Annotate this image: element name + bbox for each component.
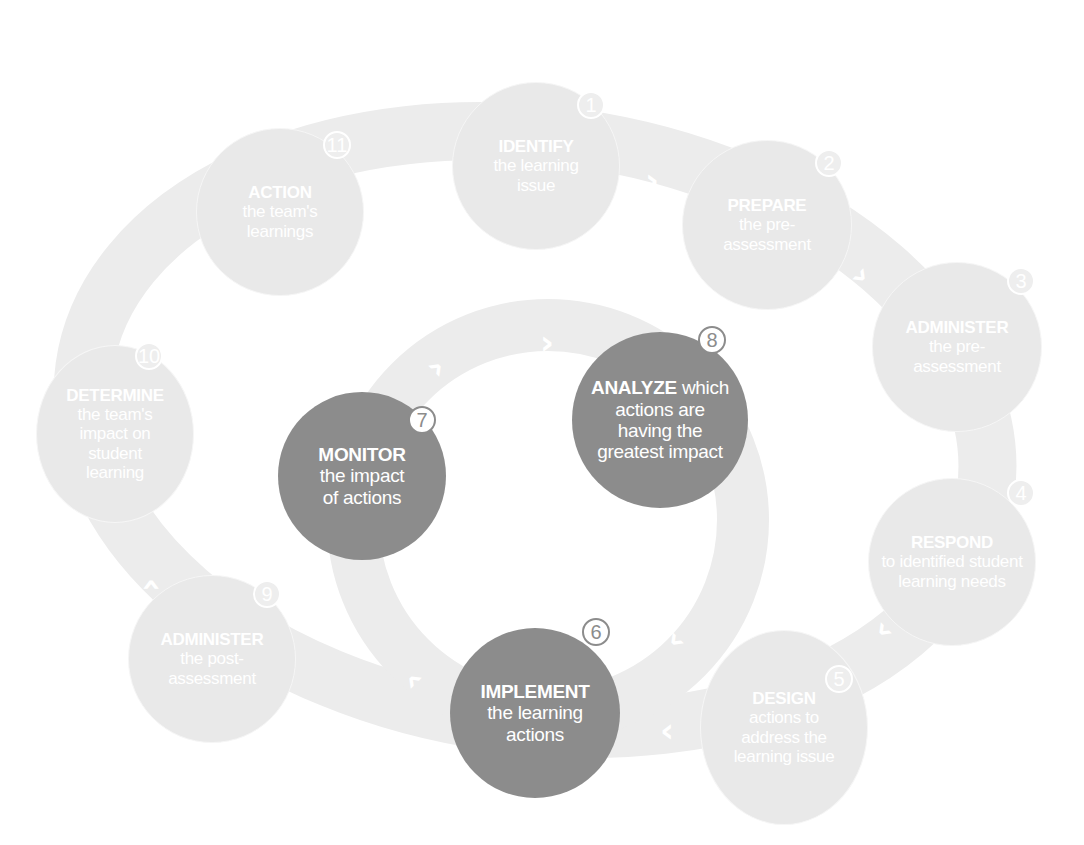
step-title: ADMINISTER — [906, 318, 1009, 337]
arrow-icon: › — [645, 163, 659, 197]
step-9-administer-post: ADMINISTERthe post-assessment 9 — [128, 575, 296, 743]
step-4-respond: RESPONDto identified student learning ne… — [868, 478, 1036, 646]
step-5-design: DESIGNactions to address the learning is… — [700, 630, 868, 825]
step-title: IDENTIFY — [481, 137, 591, 156]
step-number-badge: 7 — [408, 406, 436, 434]
step-6-implement: IMPLEMENTthe learning actions 6 — [450, 628, 620, 798]
step-number-badge: 9 — [253, 580, 281, 608]
step-number-badge: 4 — [1007, 479, 1035, 507]
arrow-icon: › — [132, 578, 166, 592]
step-description: actions to address the learning issue — [729, 708, 839, 765]
step-2-prepare: PREPAREthe pre-assessment 2 — [682, 140, 852, 310]
step-title: ADMINISTER — [161, 630, 264, 649]
step-description: the learning issue — [481, 156, 591, 194]
step-10-determine: DETERMINEthe team's impact on student le… — [36, 345, 194, 523]
step-number-badge: 8 — [698, 326, 726, 354]
step-number-badge: 5 — [825, 665, 853, 693]
step-description: the post-assessment — [162, 649, 262, 687]
step-title: MONITOR — [312, 444, 412, 465]
step-title: ACTION — [235, 183, 325, 202]
step-title: ANALYZE — [591, 377, 677, 398]
step-title: DESIGN — [729, 689, 839, 708]
step-description: the team's impact on student learning — [70, 405, 160, 481]
step-7-monitor: MONITORthe impact of actions 7 — [278, 392, 446, 560]
arrow-icon: › — [540, 325, 554, 359]
arrow-icon: › — [660, 717, 674, 751]
step-number-badge: 3 — [1007, 267, 1035, 295]
step-title: PREPARE — [717, 196, 817, 215]
step-title: IMPLEMENT — [480, 681, 590, 702]
step-number-badge: 2 — [815, 149, 843, 177]
step-description: the pre-assessment — [717, 215, 817, 253]
step-11-action: ACTIONthe team's learnings 11 — [196, 128, 364, 296]
step-title: DETERMINE — [66, 386, 163, 405]
step-description: the pre-assessment — [907, 337, 1007, 375]
step-description: the learning actions — [480, 702, 590, 745]
step-title: RESPOND — [877, 533, 1027, 552]
step-number-badge: 6 — [582, 618, 610, 646]
step-description: the team's learnings — [235, 202, 325, 240]
arrow-icon: › — [395, 160, 409, 194]
step-3-administer-pre: ADMINISTERthe pre-assessment 3 — [872, 262, 1042, 432]
step-number-badge: 1 — [577, 91, 605, 119]
step-1-identify: IDENTIFYthe learning issue 1 — [452, 82, 620, 250]
step-8-analyze: ANALYZE which actions are having the gre… — [572, 332, 748, 508]
step-description: to identified student learning needs — [877, 552, 1027, 590]
step-number-badge: 11 — [323, 131, 351, 159]
step-number-badge: 10 — [135, 342, 163, 370]
step-description: the impact of actions — [312, 465, 412, 508]
